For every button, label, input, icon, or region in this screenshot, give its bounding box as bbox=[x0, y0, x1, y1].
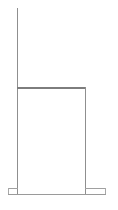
drawing-canvas: Line drawing Faint thin grey line drawin… bbox=[0, 0, 118, 210]
line-drawing bbox=[0, 0, 118, 210]
